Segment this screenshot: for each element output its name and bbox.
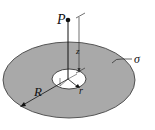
label-R: R xyxy=(34,85,42,98)
label-P: P xyxy=(57,13,66,27)
label-z: z xyxy=(76,47,80,56)
annulus-diagram xyxy=(0,0,155,130)
label-sigma: σ xyxy=(134,53,140,65)
point-P xyxy=(66,18,71,23)
label-r: r xyxy=(79,86,83,96)
